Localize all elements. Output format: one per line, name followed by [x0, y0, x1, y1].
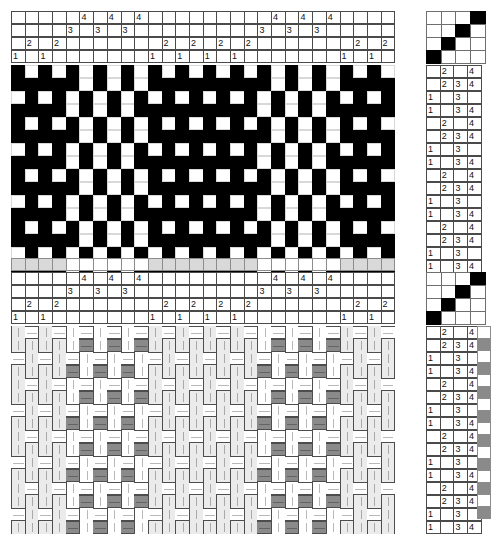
threading-cell[interactable]: 1: [38, 311, 53, 324]
threading-cell[interactable]: [11, 298, 26, 311]
threading-cell[interactable]: [216, 50, 231, 63]
treadling-cell[interactable]: 2: [440, 234, 455, 247]
tieup-cell[interactable]: [441, 311, 457, 325]
threading-cell[interactable]: 2: [52, 37, 67, 50]
threading-cell[interactable]: [11, 11, 26, 24]
treadling-cell[interactable]: 3: [453, 130, 468, 143]
treadling-grid-top[interactable]: 2423413134242341313424234131342423413134: [427, 66, 482, 274]
threading-cell[interactable]: [93, 311, 108, 324]
warp-color-bar[interactable]: [12, 259, 395, 271]
threading-cell[interactable]: [381, 285, 396, 298]
threading-cell[interactable]: 2: [353, 37, 368, 50]
warp-color-cell[interactable]: [244, 258, 259, 271]
threading-cell[interactable]: 3: [285, 285, 300, 298]
threading-cell[interactable]: [52, 24, 67, 37]
tieup-cell[interactable]: [426, 37, 442, 51]
threading-cell[interactable]: [11, 285, 26, 298]
threading-cell[interactable]: [244, 285, 259, 298]
threading-cell[interactable]: [326, 298, 341, 311]
threading-cell[interactable]: [326, 24, 341, 37]
treadling-cell[interactable]: 2: [440, 169, 455, 182]
treadling-cell[interactable]: 4: [467, 156, 482, 169]
threading-cell[interactable]: [107, 37, 122, 50]
threading-cell[interactable]: [203, 11, 218, 24]
treadling-cell[interactable]: 3: [453, 182, 468, 195]
warp-color-cell[interactable]: [271, 258, 286, 271]
treadling-cell[interactable]: 3: [453, 234, 468, 247]
threading-cell[interactable]: [257, 11, 272, 24]
threading-cell[interactable]: 4: [107, 272, 122, 285]
threading-cell[interactable]: [203, 24, 218, 37]
treadling-cell[interactable]: 3: [453, 417, 468, 430]
treadling-cell[interactable]: [440, 208, 455, 221]
threading-cell[interactable]: [381, 272, 396, 285]
tieup-cell[interactable]: [441, 298, 457, 312]
threading-cell[interactable]: [353, 285, 368, 298]
tieup-cell[interactable]: [470, 50, 486, 64]
treadling-cell[interactable]: 1: [426, 404, 441, 417]
treadling-cell[interactable]: 3: [453, 208, 468, 221]
treadling-cell[interactable]: [453, 65, 468, 78]
treadling-cell[interactable]: 4: [467, 208, 482, 221]
treadling-cell[interactable]: 3: [453, 352, 468, 365]
tieup-cell[interactable]: [455, 285, 471, 299]
treadling-cell[interactable]: [440, 352, 455, 365]
threading-cell[interactable]: [52, 285, 67, 298]
threading-cell[interactable]: 4: [79, 11, 94, 24]
treadling-cell[interactable]: [426, 221, 441, 234]
treadling-cell[interactable]: [426, 65, 441, 78]
threading-cell[interactable]: [175, 37, 190, 50]
threading-cell[interactable]: [162, 50, 177, 63]
threading-cell[interactable]: 1: [11, 50, 26, 63]
threading-cell[interactable]: [38, 285, 53, 298]
threading-row-shaft-1[interactable]: 11111111: [12, 312, 395, 325]
threading-cell[interactable]: [230, 298, 245, 311]
treadling-cell[interactable]: [440, 91, 455, 104]
treadling-cell[interactable]: 3: [453, 456, 468, 469]
threading-cell[interactable]: 1: [367, 311, 382, 324]
threading-cell[interactable]: [52, 311, 67, 324]
threading-cell[interactable]: [353, 11, 368, 24]
threading-cell[interactable]: 2: [162, 298, 177, 311]
treadling-cell[interactable]: 2: [440, 221, 455, 234]
threading-cell[interactable]: 2: [381, 37, 396, 50]
threading-cell[interactable]: [271, 37, 286, 50]
treadling-cell[interactable]: 2: [440, 130, 455, 143]
threading-cell[interactable]: 1: [230, 311, 245, 324]
threading-cell[interactable]: [162, 24, 177, 37]
treadling-cell[interactable]: 1: [426, 156, 441, 169]
threading-cell[interactable]: [148, 11, 163, 24]
threading-cell[interactable]: 3: [93, 24, 108, 37]
threading-cell[interactable]: 4: [79, 272, 94, 285]
threading-cell[interactable]: [79, 24, 94, 37]
threading-cell[interactable]: [326, 311, 341, 324]
threading-cell[interactable]: [38, 24, 53, 37]
warp-color-cell[interactable]: [367, 258, 382, 271]
treadling-cell[interactable]: [453, 482, 468, 495]
treadling-cell[interactable]: 1: [426, 508, 441, 521]
treadling-cell[interactable]: 1: [426, 417, 441, 430]
treadling-cell[interactable]: [426, 78, 441, 91]
tieup-cell[interactable]: [470, 311, 486, 325]
warp-color-cell[interactable]: [134, 258, 149, 271]
treadling-cell[interactable]: 3: [453, 521, 468, 534]
threading-cell[interactable]: 3: [66, 285, 81, 298]
threading-cell[interactable]: [38, 272, 53, 285]
threading-cell[interactable]: 2: [189, 37, 204, 50]
threading-cell[interactable]: 1: [175, 311, 190, 324]
threading-cell[interactable]: [134, 37, 149, 50]
threading-cell[interactable]: [52, 11, 67, 24]
threading-cell[interactable]: [230, 285, 245, 298]
warp-color-cell[interactable]: [52, 258, 67, 271]
threading-cell[interactable]: [66, 11, 81, 24]
treadling-cell[interactable]: 1: [426, 195, 441, 208]
threading-cell[interactable]: 1: [340, 311, 355, 324]
treadling-cell[interactable]: 2: [440, 391, 455, 404]
warp-color-cell[interactable]: [216, 258, 231, 271]
threading-cell[interactable]: [134, 285, 149, 298]
treadling-cell[interactable]: 2: [440, 482, 455, 495]
treadling-cell[interactable]: [440, 143, 455, 156]
threading-cell[interactable]: 1: [203, 311, 218, 324]
threading-cell[interactable]: [271, 24, 286, 37]
threading-cell[interactable]: [367, 272, 382, 285]
